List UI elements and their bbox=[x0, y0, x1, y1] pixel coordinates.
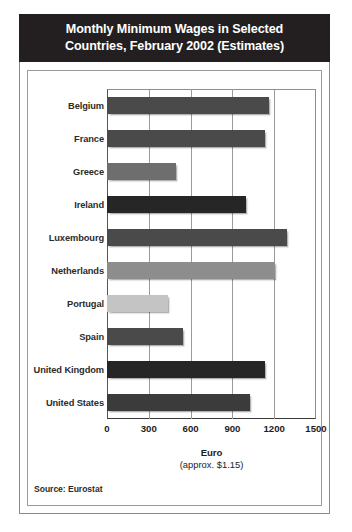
bar-netherlands bbox=[107, 262, 275, 279]
y-axis-label-text: Luxembourg bbox=[49, 233, 104, 243]
bar-row-luxembourg bbox=[107, 221, 287, 254]
page-title: Monthly Minimum Wages in Selected Countr… bbox=[65, 21, 284, 54]
plot-area bbox=[107, 89, 316, 419]
chart-title-line-1: Monthly Minimum Wages in Selected bbox=[65, 21, 284, 38]
bar-united-states bbox=[107, 394, 250, 411]
y-axis-label-text: Portugal bbox=[67, 299, 104, 309]
y-axis-label-netherlands: Netherlands bbox=[28, 254, 104, 287]
y-axis-label-france: France bbox=[28, 122, 104, 155]
bar-row-belgium bbox=[107, 89, 269, 122]
bar-ireland bbox=[107, 196, 246, 213]
y-axis-label-text: United States bbox=[46, 398, 104, 408]
y-axis-label-text: Greece bbox=[73, 167, 104, 177]
y-axis-label-greece: Greece bbox=[28, 155, 104, 188]
x-tick-label-900: 900 bbox=[224, 423, 240, 434]
bar-belgium bbox=[107, 97, 269, 114]
source-note: Source: Eurostat bbox=[34, 484, 102, 494]
x-axis-title: Euro bbox=[107, 447, 316, 458]
y-axis-label-spain: Spain bbox=[28, 320, 104, 353]
chart-title-banner: Monthly Minimum Wages in Selected Countr… bbox=[19, 14, 330, 62]
bar-row-spain bbox=[107, 320, 183, 353]
bar-united-kingdom bbox=[107, 361, 265, 378]
y-axis-label-portugal: Portugal bbox=[28, 287, 104, 320]
x-tick-label-300: 300 bbox=[141, 423, 157, 434]
x-axis-caption: Euro (approx. $1.15) bbox=[107, 447, 316, 470]
bar-row-united-states bbox=[107, 386, 250, 419]
x-tick-label-0: 0 bbox=[104, 423, 109, 434]
bar-france bbox=[107, 130, 265, 147]
x-axis-tick-labels: 030060090012001500 bbox=[107, 423, 316, 439]
y-axis-label-text: Spain bbox=[79, 332, 104, 342]
y-axis-label-luxembourg: Luxembourg bbox=[28, 221, 104, 254]
bar-row-france bbox=[107, 122, 265, 155]
chart-figure: Monthly Minimum Wages in Selected Countr… bbox=[0, 0, 352, 532]
y-axis-label-text: Ireland bbox=[74, 200, 104, 210]
x-axis-subtitle: (approx. $1.15) bbox=[107, 459, 316, 470]
bar-row-greece bbox=[107, 155, 176, 188]
bar-series bbox=[107, 89, 316, 419]
bar-spain bbox=[107, 328, 183, 345]
bar-row-ireland bbox=[107, 188, 246, 221]
chart-title-line-2: Countries, February 2002 (Estimates) bbox=[65, 38, 284, 55]
y-axis-label-belgium: Belgium bbox=[28, 89, 104, 122]
bar-row-united-kingdom bbox=[107, 353, 265, 386]
x-tick-label-1500: 1500 bbox=[305, 423, 326, 434]
bar-row-netherlands bbox=[107, 254, 275, 287]
y-axis-category-labels: Belgium France Greece Ireland Luxembourg… bbox=[28, 89, 104, 419]
bar-greece bbox=[107, 163, 176, 180]
bar-portugal bbox=[107, 295, 168, 312]
x-tick-label-1200: 1200 bbox=[264, 423, 285, 434]
bar-luxembourg bbox=[107, 229, 287, 246]
y-axis-label-text: Belgium bbox=[68, 101, 104, 111]
x-tick-label-600: 600 bbox=[183, 423, 199, 434]
y-axis-label-ireland: Ireland bbox=[28, 188, 104, 221]
y-axis-label-united-states: United States bbox=[28, 386, 104, 419]
y-axis-label-united-kingdom: United Kingdom bbox=[28, 353, 104, 386]
bar-row-portugal bbox=[107, 287, 168, 320]
y-axis-label-text: Netherlands bbox=[51, 266, 104, 276]
y-axis-label-text: France bbox=[74, 134, 104, 144]
y-axis-label-text: United Kingdom bbox=[34, 365, 104, 375]
